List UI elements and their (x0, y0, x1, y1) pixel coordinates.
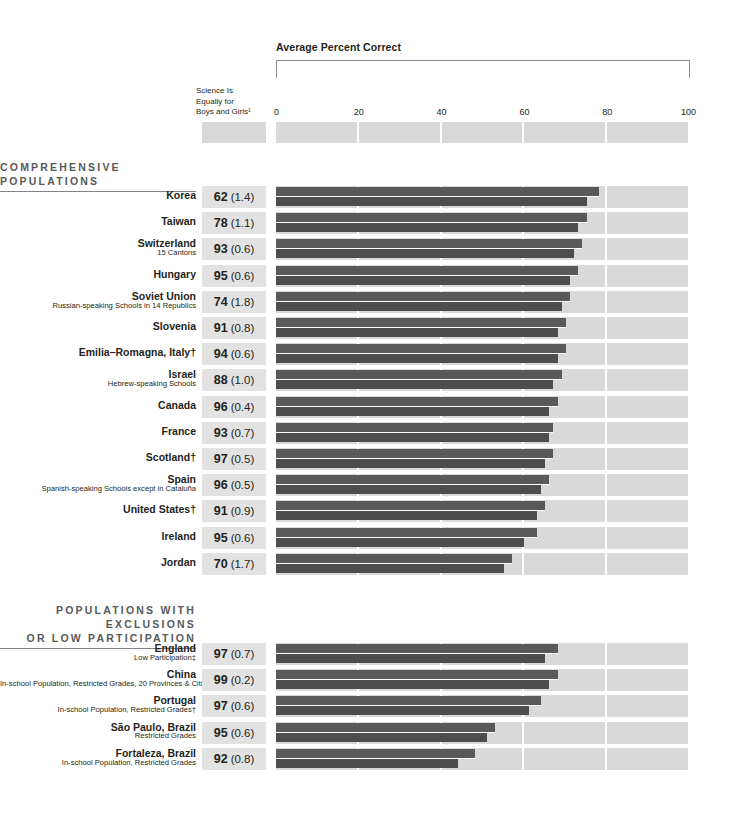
row-percent: 88 (214, 373, 228, 387)
bar-agree (276, 696, 541, 705)
row-label: Emilia–Romagna, Italy† (0, 347, 196, 358)
row-percent: 74 (214, 295, 228, 309)
chart-row[interactable]: Switzerland15 Cantons93(0.6) (0, 238, 730, 264)
plot-band-segment (524, 748, 605, 770)
plot-band-segment (607, 669, 688, 691)
row-value-cell: 93(0.7) (202, 422, 266, 444)
row-standard-error: (0.6) (231, 727, 255, 739)
bar-disagree (276, 328, 558, 337)
bar-agree (276, 423, 553, 432)
chart-row[interactable]: United States†91(0.9) (0, 500, 730, 526)
chart-row[interactable]: Korea62(1.4) (0, 186, 730, 212)
chart-row[interactable]: Jordan70(1.7) (0, 553, 730, 579)
x-axis-tick-60: 60 (519, 107, 529, 117)
row-percent: 95 (214, 726, 228, 740)
row-standard-error: (0.7) (231, 648, 255, 660)
plot-band-segment (607, 553, 688, 575)
bar-agree (276, 670, 558, 679)
row-percent: 95 (214, 531, 228, 545)
chart-row[interactable]: Fortaleza, BrazilIn-school Population, R… (0, 748, 730, 774)
row-standard-error: (0.6) (231, 243, 255, 255)
row-value-cell: 97(0.5) (202, 448, 266, 470)
row-percent: 93 (214, 426, 228, 440)
bar-separator (276, 758, 475, 759)
row-value-cell: 78(1.1) (202, 212, 266, 234)
header-bands (276, 122, 690, 143)
chart-row[interactable]: Ireland95(0.6) (0, 527, 730, 553)
bar-agree (276, 397, 558, 406)
row-standard-error: (1.8) (231, 296, 255, 308)
row-plot (276, 643, 690, 665)
chart-row[interactable]: SpainSpanish-speaking Schools except in … (0, 474, 730, 500)
row-label: ChinaIn-school Population, Restricted Gr… (0, 669, 196, 687)
row-country-name: Hungary (0, 269, 196, 280)
chart-title: Average Percent Correct (276, 41, 401, 53)
row-plot (276, 474, 690, 496)
bar-disagree (276, 485, 541, 494)
bar-agree (276, 344, 566, 353)
row-percent: 95 (214, 269, 228, 283)
row-country-name: Canada (0, 400, 196, 411)
chart-row[interactable]: France93(0.7) (0, 422, 730, 448)
x-axis-tick-20: 20 (354, 107, 364, 117)
chart-row[interactable]: Scotland†97(0.5) (0, 448, 730, 474)
row-plot (276, 265, 690, 287)
bar-disagree (276, 654, 545, 663)
bar-agree (276, 644, 558, 653)
row-label: United States† (0, 504, 196, 515)
row-plot (276, 396, 690, 418)
row-country-note: Russian-speaking Schools in 14 Republics (0, 302, 196, 310)
chart-row[interactable]: Slovenia91(0.8) (0, 317, 730, 343)
bar-separator (276, 732, 495, 733)
chart-row[interactable]: São Paulo, BrazilRestricted Grades95(0.6… (0, 722, 730, 748)
bar-separator (276, 406, 558, 407)
row-plot (276, 317, 690, 339)
bar-disagree (276, 538, 524, 547)
row-standard-error: (0.6) (231, 348, 255, 360)
chart-row[interactable]: IsraelHebrew-speaking Schools88(1.0) (0, 369, 730, 395)
plot-band-segment (607, 748, 688, 770)
plot-band-segment (607, 396, 688, 418)
row-standard-error: (0.5) (231, 479, 255, 491)
row-plot (276, 553, 690, 575)
x-axis-ticks: 020406080100 (276, 107, 690, 121)
bar-agree (276, 554, 512, 563)
chart-row[interactable]: Soviet UnionRussian-speaking Schools in … (0, 291, 730, 317)
row-value-cell: 95(0.6) (202, 265, 266, 287)
row-percent: 93 (214, 242, 228, 256)
chart-row[interactable]: Hungary95(0.6) (0, 265, 730, 291)
bar-disagree (276, 759, 458, 768)
plot-band-segment (607, 317, 688, 339)
chart-row[interactable]: EnglandLow Participation‡97(0.7) (0, 643, 730, 669)
chart-row[interactable]: PortugalIn-school Population, Restricted… (0, 695, 730, 721)
bar-separator (276, 458, 553, 459)
bar-separator (276, 537, 537, 538)
bar-disagree (276, 223, 578, 232)
row-country-name: Scotland† (0, 452, 196, 463)
row-label: France (0, 426, 196, 437)
chart-row[interactable]: Emilia–Romagna, Italy†94(0.6) (0, 343, 730, 369)
row-plot (276, 527, 690, 549)
row-plot (276, 238, 690, 260)
row-plot (276, 291, 690, 313)
bar-separator (276, 563, 512, 564)
bar-separator (276, 379, 562, 380)
bar-disagree (276, 276, 570, 285)
row-value-cell: 99(0.2) (202, 669, 266, 691)
bar-separator (276, 275, 578, 276)
chart-row[interactable]: ChinaIn-school Population, Restricted Gr… (0, 669, 730, 695)
chart-container: Average Percent Correct Science Is Equal… (0, 0, 730, 832)
plot-band-segment (607, 238, 688, 260)
row-percent: 96 (214, 400, 228, 414)
row-country-name: Korea (0, 190, 196, 201)
row-country-note: Low Participation‡ (0, 654, 196, 662)
row-country-note: In-school Population, Restricted Grades (0, 759, 196, 767)
chart-row[interactable]: Canada96(0.4) (0, 396, 730, 422)
row-country-note: Hebrew-speaking Schools (0, 380, 196, 388)
bar-separator (276, 510, 545, 511)
row-country-name: United States† (0, 504, 196, 515)
plot-band-segment (607, 643, 688, 665)
chart-row[interactable]: Taiwan78(1.1) (0, 212, 730, 238)
row-standard-error: (0.6) (231, 270, 255, 282)
row-value-cell: 94(0.6) (202, 343, 266, 365)
